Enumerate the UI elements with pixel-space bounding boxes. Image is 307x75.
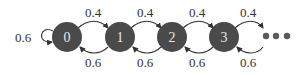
state-node-2: 2: [157, 22, 187, 52]
forward-edge-0-1: 0.4: [78, 5, 108, 28]
backward-edge-label: 0.6: [137, 55, 154, 70]
backward-edge-label: 0.6: [189, 55, 206, 70]
self-loop-label: 0.6: [15, 30, 32, 45]
backward-edge-2-1: 0.6: [133, 47, 161, 70]
forward-edge-label: 0.4: [85, 5, 102, 20]
state-node-3: 3: [209, 22, 239, 52]
forward-edge-1-2: 0.4: [131, 5, 161, 28]
backward-edge-label: 0.6: [85, 55, 102, 70]
self-loop-edge-0: 0.6: [15, 30, 53, 45]
state-label: 3: [221, 30, 228, 45]
state-node-1: 1: [105, 22, 135, 52]
backward-edge-3-2: 0.6: [185, 47, 213, 70]
forward-edge-label: 0.4: [240, 5, 257, 20]
state-label: 1: [117, 30, 124, 45]
forward-edge-label: 0.4: [189, 5, 206, 20]
forward-edge-2-3: 0.4: [183, 5, 213, 28]
backward-edge-next-3: 0.6: [237, 47, 263, 70]
state-label: 2: [169, 30, 176, 45]
state-node-0: 0: [52, 22, 82, 52]
backward-edge-1-0: 0.6: [80, 47, 108, 70]
markov-chain-diagram: 0.6 0.4 0.4 0.4 0.4 0.6 0.6 0.6 0.6 0: [0, 0, 307, 75]
forward-edge-3-next: 0.4: [235, 5, 263, 28]
backward-edge-label: 0.6: [240, 55, 257, 70]
ellipsis-continuation-icon: [263, 33, 290, 39]
forward-edge-label: 0.4: [137, 5, 154, 20]
state-label: 0: [64, 30, 71, 45]
